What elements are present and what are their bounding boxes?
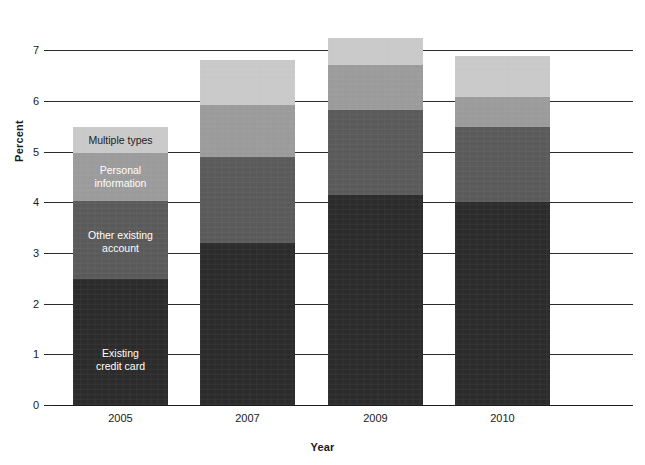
scan-grain-overlay [200, 105, 295, 157]
y-tick-label-5: 5 [19, 147, 39, 158]
y-tick-mark-4 [44, 202, 52, 203]
bar-segment-2007-personal-information [200, 105, 295, 157]
bar-segment-2005-other-existing-account: Other existing account [73, 201, 168, 279]
bar-segment-2005-personal-information: Personal information [73, 153, 168, 201]
plot-area: 01234567Multiple typesPersonal informati… [52, 30, 633, 405]
scan-grain-overlay [328, 195, 423, 405]
y-tick-label-2: 2 [19, 299, 39, 310]
bar-2010 [455, 56, 550, 405]
bar-segment-2007-other-existing-account [200, 157, 295, 243]
scan-grain-overlay [328, 65, 423, 109]
y-tick-mark-1 [44, 354, 52, 355]
stacked-bar-chart: Percent 01234567Multiple typesPersonal i… [0, 0, 645, 465]
y-tick-mark-7 [44, 50, 52, 51]
scan-grain-overlay [200, 60, 295, 105]
bar-segment-2010-other-existing-account [455, 127, 550, 202]
gridline-0 [52, 405, 633, 406]
bar-segment-2005-existing-credit-card: Existing credit card [73, 279, 168, 405]
bar-segment-2007-multiple-types [200, 60, 295, 105]
bar-segment-2010-multiple-types [455, 56, 550, 97]
scan-grain-overlay [328, 110, 423, 196]
bar-2009 [328, 38, 423, 405]
bar-2007 [200, 60, 295, 405]
scan-grain-overlay [328, 38, 423, 65]
bar-segment-2007-existing-credit-card [200, 243, 295, 405]
scan-grain-overlay [455, 127, 550, 202]
scan-grain-overlay [200, 243, 295, 405]
y-tick-mark-3 [44, 253, 52, 254]
y-tick-mark-6 [44, 101, 52, 102]
y-tick-label-6: 6 [19, 96, 39, 107]
bar-segment-2010-personal-information [455, 97, 550, 127]
y-tick-mark-2 [44, 304, 52, 305]
bar-2005: Multiple typesPersonal informationOther … [73, 127, 168, 405]
x-axis-title: Year [0, 441, 645, 453]
bar-segment-2009-existing-credit-card [328, 195, 423, 405]
y-tick-label-4: 4 [19, 197, 39, 208]
x-tick-label-2007: 2007 [200, 412, 295, 424]
bar-segment-2005-multiple-types: Multiple types [73, 127, 168, 153]
scan-grain-overlay [455, 56, 550, 97]
bar-segment-2009-multiple-types [328, 38, 423, 65]
bar-segment-2009-other-existing-account [328, 110, 423, 196]
scan-grain-overlay [200, 157, 295, 243]
series-label-multiple-types: Multiple types [85, 134, 155, 147]
y-tick-label-0: 0 [19, 400, 39, 411]
x-tick-label-2005: 2005 [73, 412, 168, 424]
scan-grain-overlay [455, 202, 550, 405]
y-tick-label-1: 1 [19, 349, 39, 360]
series-label-personal-information: Personal information [92, 164, 150, 190]
y-tick-label-7: 7 [19, 45, 39, 56]
scan-grain-overlay [455, 97, 550, 127]
bar-segment-2010-existing-credit-card [455, 202, 550, 405]
y-tick-mark-5 [44, 152, 52, 153]
series-label-existing-credit-card: Existing credit card [93, 347, 148, 373]
series-label-other-existing-account: Other existing account [85, 229, 156, 255]
bar-segment-2009-personal-information [328, 65, 423, 109]
y-tick-label-3: 3 [19, 248, 39, 259]
scan-grain-overlay [73, 279, 168, 405]
x-tick-label-2009: 2009 [328, 412, 423, 424]
x-tick-label-2010: 2010 [455, 412, 550, 424]
y-tick-mark-0 [44, 405, 52, 406]
y-axis-title: Percent [13, 96, 25, 186]
